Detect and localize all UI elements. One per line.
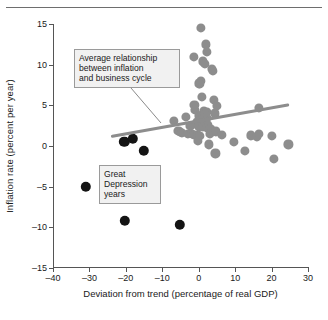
scatter-point: [81, 181, 91, 191]
scatter-point: [189, 52, 198, 61]
x-tick: [89, 267, 90, 272]
scatter-point: [197, 93, 206, 102]
y-tick: [49, 227, 54, 228]
y-axis-title: Inflation rate (percent per year): [2, 24, 16, 268]
x-tick: [272, 267, 273, 272]
scatter-point: [205, 140, 214, 149]
scatter-point: [240, 146, 249, 155]
y-tick-label: –15: [32, 264, 47, 273]
scatter-point: [229, 137, 238, 146]
scatter-point: [193, 137, 202, 146]
y-tick-label: 5: [42, 101, 47, 110]
x-tick-label: –10: [155, 274, 170, 283]
x-axis-line: [53, 267, 308, 268]
scatter-point: [120, 216, 130, 226]
x-axis-title-text: Deviation from trend (percentage of real…: [83, 288, 277, 299]
x-tick-label: –20: [118, 274, 133, 283]
y-tick: [49, 24, 54, 25]
scatter-point: [269, 154, 278, 163]
y-tick-label: 10: [37, 61, 47, 70]
trend-annotation-box: Average relationship between inflation a…: [74, 49, 180, 88]
x-tick-label: 0: [196, 274, 201, 283]
scatter-point: [268, 132, 277, 141]
x-tick-label: 20: [267, 274, 277, 283]
scatter-point: [202, 47, 211, 56]
scatter-point: [284, 140, 293, 149]
scatter-point: [139, 146, 149, 156]
x-tick: [308, 267, 309, 272]
x-tick-label: –40: [45, 274, 60, 283]
scatter-point: [217, 130, 226, 139]
x-tick: [162, 267, 163, 272]
y-tick: [49, 187, 54, 188]
x-tick-label: 10: [230, 274, 240, 283]
y-tick: [49, 146, 54, 147]
top-rule-divider: [6, 7, 322, 8]
x-tick-label: –30: [82, 274, 97, 283]
depression-annotation-box: Great Depression years: [99, 165, 161, 204]
scatter-point: [175, 220, 185, 230]
scatter-point: [128, 133, 138, 143]
x-tick: [235, 267, 236, 272]
x-tick-label: 30: [303, 274, 313, 283]
x-axis-title: Deviation from trend (percentage of real…: [53, 288, 308, 299]
scatter-point: [255, 129, 264, 138]
y-tick: [49, 105, 54, 106]
scatter-point: [208, 67, 217, 76]
figure-canvas: Inflation rate (percent per year) –15–10…: [0, 0, 328, 320]
y-axis-title-text: Inflation rate (percent per year): [4, 79, 15, 213]
y-tick-label: –5: [37, 183, 47, 192]
y-tick-label: 0: [42, 142, 47, 151]
scatter-point: [196, 23, 205, 32]
y-tick-label: –10: [32, 223, 47, 232]
y-tick: [49, 65, 54, 66]
scatter-point: [211, 149, 220, 158]
scatter-point: [195, 80, 204, 89]
x-tick: [53, 267, 54, 272]
x-tick: [199, 267, 200, 272]
x-tick: [126, 267, 127, 272]
y-tick-label: 15: [37, 20, 47, 29]
